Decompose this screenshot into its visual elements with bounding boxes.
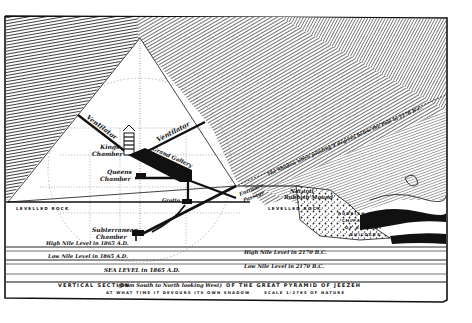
title-block: VERTICAL SECTION (from South to North lo… (58, 282, 361, 295)
title-part-b: (from South to North looking West) (118, 282, 222, 289)
title-part-c: OF THE GREAT PYRAMID OF JEEZEH (226, 282, 361, 288)
pyramid-section-diagram: Ventilator Ventilator Kings Chamber Gran… (0, 0, 472, 323)
label-grotto: Grotto (162, 197, 181, 203)
label-rubbish-chips-3: OF ANCIENT (345, 225, 383, 230)
label-natural-rubbish-2: Rubbish Mound (283, 194, 333, 200)
label-rubbish-chips-2: CHIPS (342, 218, 361, 223)
label-rubbish-chips-1: RUBBISH (338, 211, 366, 216)
label-low-nile-2170: Low Nile Level in 2170 B.C. (243, 263, 324, 269)
label-levelled-rock-left: LEVELLED ROCK (16, 206, 69, 211)
label-kings-chamber-2: Chamber (92, 150, 123, 157)
scale-note: SCALE 1/2785 OF NATURE (264, 290, 345, 295)
label-sea-level: SEA LEVEL in 1865 A.D. (104, 267, 180, 273)
label-subterranean-chamber: Subterranean (92, 226, 138, 233)
label-subterranean-chamber-2: Chamber (96, 233, 127, 240)
label-levelled-rock-right: LEVELLED ROCK (268, 206, 321, 211)
label-high-nile-1865: High Nile Level in 1865 A.D. (45, 240, 129, 247)
label-high-nile-2170: High Nile Level in 2170 B.C. (243, 249, 327, 256)
label-low-nile-1865: Low Nile Level in 1865 A.D. (47, 253, 128, 259)
label-rubbish-chips-4: BUILDERS (350, 232, 381, 237)
label-queens-chamber-2: Chamber (100, 175, 131, 182)
subtitle: AT WHAT TIME IT DEVOURS ITS OWN SHADOW (106, 290, 250, 295)
